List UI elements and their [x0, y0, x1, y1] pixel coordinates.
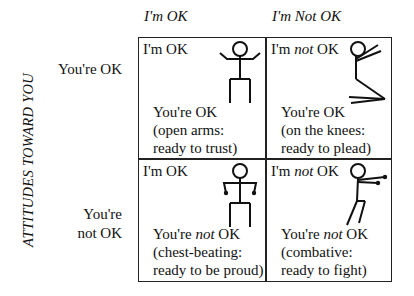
kneeling-figure-icon	[345, 39, 391, 109]
cell-im-ok-youre-not-ok: I'm OK You're not OK (chest-beating: rea…	[139, 160, 265, 281]
cell-im-not-ok-youre-ok: I'm not OK You're OK (on the knees: read…	[267, 38, 393, 159]
combative-figure-icon	[345, 161, 391, 231]
row-header-line2: not OK	[77, 224, 122, 243]
attitude-matrix: I'm OK You're OK (open arms: ready to tr…	[138, 37, 392, 282]
cell-im-ok-youre-ok: I'm OK You're OK (open arms: ready to tr…	[139, 38, 265, 159]
cell-description: You're OK (open arms: ready to trust)	[153, 103, 237, 157]
chest-beating-figure-icon	[217, 161, 263, 231]
cell-description: You're OK (on the knees: ready to plead)	[281, 103, 371, 157]
cell-heading: I'm not OK	[271, 41, 339, 58]
vertical-axis-label: ATTITUDES TOWARD YOU	[20, 73, 37, 247]
column-header-im-ok: I'm OK	[144, 8, 188, 25]
open-arms-figure-icon	[217, 39, 263, 109]
cell-description: You're not OK (combative: ready to fight…	[281, 225, 368, 279]
cell-heading: I'm OK	[143, 41, 188, 58]
cell-heading: I'm OK	[143, 163, 188, 180]
row-header-youre-not-ok: You're not OK	[77, 205, 122, 243]
cell-description: You're not OK (chest-beating: ready to b…	[153, 225, 263, 279]
row-header-youre-ok: You're OK	[58, 60, 122, 79]
cell-heading: I'm not OK	[271, 163, 339, 180]
column-header-im-not-ok: I'm Not OK	[272, 8, 341, 25]
cell-im-not-ok-youre-not-ok: I'm not OK You're not OK (combative: rea…	[267, 160, 393, 281]
row-header-line1: You're	[77, 205, 122, 224]
